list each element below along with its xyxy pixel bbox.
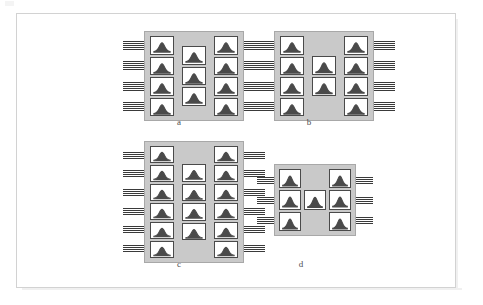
chip-cell (182, 223, 206, 241)
arch-peak-glyph (183, 224, 205, 240)
arch-peak-glyph (281, 37, 303, 54)
panel-d (257, 164, 373, 236)
arch-peak-glyph (280, 213, 300, 230)
arch-peak-glyph (183, 47, 205, 64)
chip-cell (214, 203, 238, 220)
arch-peak-glyph (151, 99, 173, 116)
frame-shadow-bottom (22, 288, 462, 290)
chip-cell (312, 56, 336, 75)
chip-cell (304, 190, 326, 210)
panel-a-column-middle (182, 46, 206, 106)
arch-peak-glyph (183, 88, 205, 105)
panel-a-column-left (150, 36, 174, 116)
arch-peak-glyph (183, 185, 205, 201)
arch-peak-glyph (345, 99, 367, 116)
chip-cell (214, 184, 238, 201)
chip-cell (150, 184, 174, 201)
panel-c-column-middle (182, 164, 206, 240)
arch-peak-glyph (280, 191, 300, 208)
arch-peak-glyph (281, 78, 303, 95)
panel-b (253, 31, 395, 121)
arch-peak-glyph (215, 242, 237, 257)
page-artifact-speck (5, 1, 14, 6)
figure-frame: a b c d (16, 13, 456, 288)
chip-cell (150, 57, 174, 76)
chip-cell (329, 212, 351, 231)
chip-cell (344, 36, 368, 55)
arch-peak-glyph (183, 165, 205, 181)
chip-cell (150, 77, 174, 96)
panel-c (123, 141, 265, 263)
chip-cell (182, 87, 206, 106)
arch-peak-glyph (151, 147, 173, 162)
arch-peak-glyph (215, 204, 237, 219)
arch-peak-glyph (330, 170, 350, 187)
frame-shadow-right (456, 19, 458, 290)
arch-peak-glyph (215, 147, 237, 162)
panel-d-column-middle (304, 190, 326, 210)
chip-cell (214, 241, 238, 258)
panel-c-column-left (150, 146, 174, 258)
arch-peak-glyph (215, 99, 237, 116)
chip-cell (214, 36, 238, 55)
chip-cell (279, 190, 301, 209)
chip-cell (344, 98, 368, 117)
panel-d-caption: d (291, 259, 311, 269)
arch-peak-glyph (280, 170, 300, 187)
panel-b-column-right (344, 36, 368, 116)
arch-peak-glyph (215, 223, 237, 238)
arch-peak-glyph (313, 57, 335, 74)
arch-peak-glyph (313, 78, 335, 95)
chip-cell (182, 67, 206, 86)
chip-cell (150, 36, 174, 55)
arch-peak-glyph (345, 37, 367, 54)
arch-peak-glyph (215, 185, 237, 200)
chip-cell (150, 203, 174, 220)
chip-cell (150, 98, 174, 117)
arch-peak-glyph (183, 68, 205, 85)
panel-b-caption: b (299, 117, 319, 127)
chip-cell (214, 77, 238, 96)
chip-cell (280, 98, 304, 117)
chip-cell (182, 46, 206, 65)
panel-d-column-right (329, 169, 351, 231)
arch-peak-glyph (151, 242, 173, 257)
chip-cell (150, 222, 174, 239)
chip-cell (280, 77, 304, 96)
arch-peak-glyph (215, 58, 237, 75)
arch-peak-glyph (151, 78, 173, 95)
arch-peak-glyph (281, 58, 303, 75)
arch-peak-glyph (215, 166, 237, 181)
arch-peak-glyph (345, 58, 367, 75)
chip-cell (312, 77, 336, 96)
chip-cell (280, 57, 304, 76)
chip-cell (214, 165, 238, 182)
chip-cell (279, 169, 301, 188)
panel-c-column-right (214, 146, 238, 258)
arch-peak-glyph (151, 58, 173, 75)
panel-d-column-left (279, 169, 301, 231)
panel-b-column-left (280, 36, 304, 116)
chip-cell (150, 241, 174, 258)
chip-cell (182, 164, 206, 182)
arch-peak-glyph (215, 78, 237, 95)
arch-peak-glyph (151, 166, 173, 181)
arch-peak-glyph (330, 191, 350, 208)
arch-peak-glyph (151, 185, 173, 200)
arch-peak-glyph (215, 37, 237, 54)
chip-cell (214, 98, 238, 117)
arch-peak-glyph (151, 223, 173, 238)
arch-peak-glyph (151, 37, 173, 54)
chip-cell (214, 222, 238, 239)
chip-cell (214, 146, 238, 163)
panel-c-caption: c (169, 259, 189, 269)
chip-cell (344, 77, 368, 96)
chip-cell (150, 146, 174, 163)
panel-a-caption: a (169, 117, 189, 127)
panel-a (123, 31, 265, 121)
chip-cell (150, 165, 174, 182)
chip-cell (279, 212, 301, 231)
chip-cell (182, 184, 206, 202)
chip-cell (280, 36, 304, 55)
chip-cell (182, 203, 206, 221)
